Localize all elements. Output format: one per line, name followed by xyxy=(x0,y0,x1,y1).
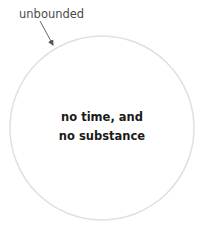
unbounded-label: unbounded xyxy=(19,7,84,21)
center-text-line-1: no time, and xyxy=(50,108,154,127)
arrow-icon xyxy=(40,21,53,45)
circle-center-text: no time, and no substance xyxy=(50,108,154,146)
center-text-line-2: no substance xyxy=(50,127,154,146)
